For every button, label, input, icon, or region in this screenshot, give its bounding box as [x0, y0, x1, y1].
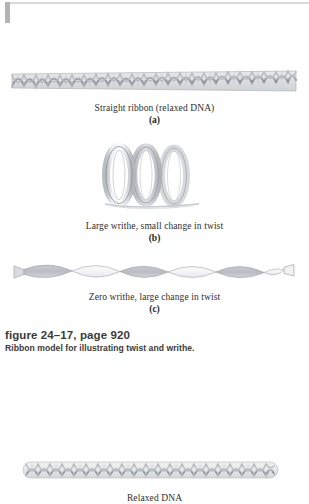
scan-left-edge-mark [5, 2, 10, 23]
scan-top-rule [9, 2, 309, 4]
figure-panel-c: Zero writhe, large change in twist (c) [0, 258, 309, 315]
panel-c-letter: (c) [0, 303, 309, 315]
flat-twisted-ribbon-graphic [0, 258, 309, 286]
panel-a-caption: Straight ribbon (relaxed DNA) [0, 102, 309, 114]
figure-panel-relaxed-dna: Relaxed DNA [0, 456, 309, 504]
panel-a-letter: (a) [0, 114, 309, 126]
figure-panel-a: Straight ribbon (relaxed DNA) (a) [0, 66, 309, 126]
straight-dna-ribbon-graphic-bottom [0, 456, 309, 486]
straight-dna-ribbon-graphic-a [0, 66, 309, 96]
figure-panel-b: Large writhe, small change in twist (b) [0, 142, 309, 244]
figure-label-title: figure 24–17, page 920 [5, 329, 295, 342]
figure-label-block: figure 24–17, page 920 Ribbon model for … [5, 329, 295, 354]
figure-label-description: Ribbon model for illustrating twist and … [5, 343, 295, 354]
panel-b-letter: (b) [0, 232, 309, 244]
panel-b-caption: Large writhe, small change in twist [0, 220, 309, 232]
coiled-solenoid-loops-graphic [0, 142, 309, 214]
relaxed-dna-caption: Relaxed DNA [0, 492, 309, 504]
panel-c-caption: Zero writhe, large change in twist [0, 291, 309, 303]
